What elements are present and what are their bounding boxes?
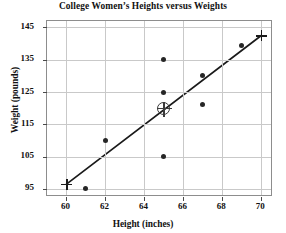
gridline-horizontal [47,60,271,61]
data-point [103,138,108,143]
page-title: College Women’s Heights versus Weights [0,1,286,11]
plus-marker [256,30,267,41]
gridline-vertical [183,21,184,195]
y-axis-title: Weight (pounds) [10,30,20,170]
gridline-horizontal [47,157,271,158]
y-axis-tick [43,92,47,93]
gridline-vertical [144,21,145,195]
gridline-vertical [66,21,67,195]
gridline-vertical [261,21,262,195]
x-axis-tick-label: 64 [128,202,158,211]
plot-area [46,20,272,196]
x-axis-tick-label: 70 [245,202,275,211]
plus-marker [61,179,72,190]
gridline-vertical [105,21,106,195]
y-axis-tick [43,124,47,125]
x-axis-tick-label: 66 [167,202,197,211]
y-axis-tick [43,27,47,28]
y-axis-tick [43,189,47,190]
gridline-horizontal [47,124,271,125]
x-axis-tick-label: 60 [50,202,80,211]
x-axis-title: Height (inches) [0,219,286,229]
gridline-vertical [222,21,223,195]
y-axis-tick [43,60,47,61]
chart-page: College Women’s Heights versus Weights 9… [0,0,286,233]
y-axis-tick-label: 95 [0,183,34,192]
data-point [161,90,166,95]
gridline-horizontal [47,92,271,93]
x-axis-tick-label: 68 [206,202,236,211]
gridline-horizontal [47,27,271,28]
gridline-horizontal [47,189,271,190]
y-axis-tick [43,157,47,158]
x-axis-tick-label: 62 [89,202,119,211]
